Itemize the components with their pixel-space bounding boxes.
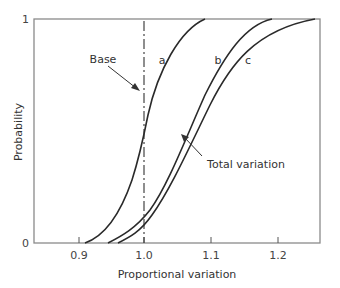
curve-label-a: a <box>159 54 166 67</box>
x-tick-1.1: 1.1 <box>202 249 220 262</box>
x-tick-1.0: 1.0 <box>135 249 153 262</box>
curve-c <box>118 19 315 243</box>
probability-chart: 1 0 Probability 0.9 1.0 1.1 1.2 Proporti… <box>0 0 340 288</box>
plot-frame <box>34 19 320 243</box>
total-variation-annotation: Total variation <box>206 158 285 171</box>
curve-label-b: b <box>215 54 222 67</box>
y-tick-1: 1 <box>22 13 29 26</box>
base-arrow-head-icon <box>131 83 140 91</box>
x-tick-0.9: 0.9 <box>70 249 88 262</box>
y-axis-label: Probability <box>12 102 25 161</box>
x-tick-1.2: 1.2 <box>269 249 287 262</box>
base-annotation: Base <box>90 53 117 66</box>
base-arrow-line <box>108 66 136 88</box>
curve-b <box>108 19 272 243</box>
curve-label-c: c <box>245 54 251 67</box>
x-axis-label: Proportional variation <box>118 268 237 281</box>
y-tick-0: 0 <box>22 237 29 250</box>
